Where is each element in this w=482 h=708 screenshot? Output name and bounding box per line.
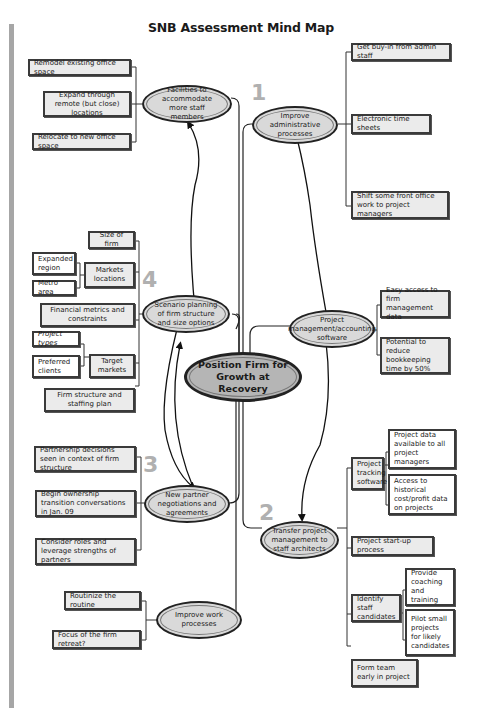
node-target-markets[interactable]: Target markets xyxy=(89,354,135,378)
node-easy-access-data[interactable]: Easy access to firm management data xyxy=(380,290,450,318)
page-margin-bar xyxy=(9,24,14,708)
node-historical-cost-data[interactable]: Access to historical cost/profit data on… xyxy=(388,474,456,515)
branch-number-2: 2 xyxy=(259,500,274,525)
branch-facilities[interactable]: Facilities to accommodate more staff mem… xyxy=(142,85,232,123)
node-routinize[interactable]: Routinize the routine xyxy=(64,591,141,610)
branch-transfer[interactable]: Transfer project management to staff arc… xyxy=(260,521,339,559)
node-preferred-clients[interactable]: Preferred clients xyxy=(32,355,80,378)
branch-number-3: 3 xyxy=(143,452,158,477)
branch-software-label: Project management/accounting software xyxy=(280,316,384,343)
branch-scenario-label: Scenario planning of firm structure and … xyxy=(144,301,228,328)
node-ownership-transition[interactable]: Begin ownership transition conversations… xyxy=(35,490,136,517)
node-expand-remote[interactable]: Expand through remote (but close) locati… xyxy=(43,91,131,117)
branch-facilities-label: Facilities to accommodate more staff mem… xyxy=(144,86,230,122)
node-electronic-timesheets[interactable]: Electronic time sheets xyxy=(351,114,431,134)
branch-number-4: 4 xyxy=(142,267,157,292)
branch-partner-label: New partner negotiations and agreements xyxy=(146,491,228,518)
node-project-tracking-software[interactable]: Project tracking software xyxy=(351,457,384,490)
node-shift-front-office[interactable]: Shift some front office work to project … xyxy=(351,191,449,219)
branch-admin-label: Improve administrative processes xyxy=(254,112,336,139)
node-buy-in-admin[interactable]: Get buy-in from admin staff xyxy=(351,43,451,61)
central-topic-label: Position Firm for Growth at Recovery xyxy=(187,359,299,395)
node-consider-roles[interactable]: Consider roles and leverage strengths of… xyxy=(35,538,136,565)
node-remodel-office[interactable]: Remodel existing office space xyxy=(28,59,131,76)
node-coaching-training[interactable]: Provide coaching and training xyxy=(405,568,455,606)
branch-work[interactable]: Improve work processes xyxy=(156,601,242,639)
node-firm-retreat[interactable]: Focus of the firm retreat? xyxy=(52,630,141,649)
node-expanded-region[interactable]: Expanded region xyxy=(32,252,76,275)
node-project-data-available[interactable]: Project data available to all project ma… xyxy=(388,429,456,469)
page-title: SNB Assessment Mind Map xyxy=(0,20,482,35)
branch-admin[interactable]: Improve administrative processes xyxy=(252,106,338,144)
node-firm-structure-staffing[interactable]: Firm structure and staffing plan xyxy=(44,388,135,412)
node-size-of-firm[interactable]: Size of firm xyxy=(88,231,135,249)
node-relocate-office[interactable]: Relocate to new office space xyxy=(32,133,131,150)
branch-scenario[interactable]: Scenario planning of firm structure and … xyxy=(142,295,230,333)
central-topic[interactable]: Position Firm for Growth at Recovery xyxy=(184,352,302,402)
node-project-types[interactable]: Project types xyxy=(32,331,80,347)
branch-transfer-label: Transfer project management to staff arc… xyxy=(262,527,337,554)
node-partnership-decisions[interactable]: Partnership decisions seen in context of… xyxy=(34,446,136,472)
branch-number-1: 1 xyxy=(251,80,266,105)
node-reduce-bookkeeping[interactable]: Potential to reduce bookkeeping time by … xyxy=(380,337,450,374)
node-pilot-small-projects[interactable]: Pilot small projects for likely candidat… xyxy=(405,609,455,656)
node-project-startup[interactable]: Project start-up process xyxy=(351,536,434,556)
branch-work-label: Improve work processes xyxy=(158,611,240,629)
node-markets-locations[interactable]: Markets locations xyxy=(84,262,135,288)
branch-partner[interactable]: New partner negotiations and agreements xyxy=(144,485,230,523)
branch-software[interactable]: Project management/accounting software xyxy=(289,310,375,348)
node-financial-metrics[interactable]: Financial metrics and constraints xyxy=(40,303,135,327)
node-identify-staff[interactable]: Identify staff candidates xyxy=(351,594,401,622)
node-metro-area[interactable]: Metro area xyxy=(32,280,76,296)
node-form-team-early[interactable]: Form team early in project xyxy=(351,659,418,687)
